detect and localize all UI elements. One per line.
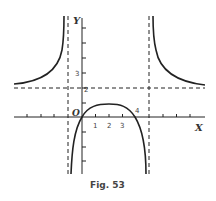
y-ticks: [82, 28, 86, 161]
tick-label-x-4: 4: [135, 107, 140, 115]
x-axis-label: X: [194, 122, 204, 133]
asymptotes: [14, 16, 205, 174]
tick-label-y-2: 2: [84, 86, 88, 94]
curve-right-branch: [153, 16, 205, 85]
axes: [14, 18, 205, 174]
tick-label-x-2: 2: [107, 122, 111, 130]
curve-left-branch: [14, 16, 64, 84]
tick-label-x-3: 3: [120, 122, 124, 130]
figure-canvas: Y X O 1 2 3 4 2 3 Fig. 53: [0, 0, 216, 201]
origin-label: O: [72, 108, 80, 118]
figure-caption: Fig. 53: [90, 180, 125, 190]
tick-label-x-1: 1: [93, 122, 97, 130]
tick-label-y-3: 3: [75, 70, 79, 78]
curves: [14, 16, 205, 174]
y-axis-label: Y: [73, 15, 81, 26]
